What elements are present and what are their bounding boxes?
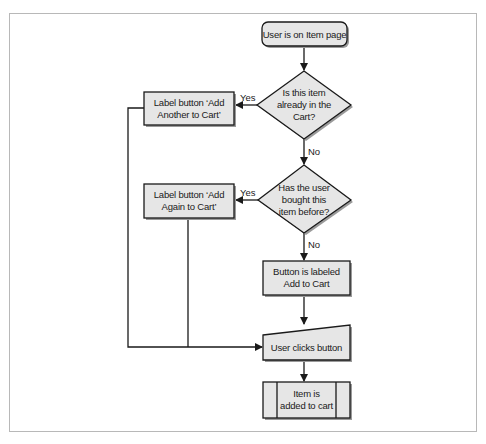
node-label-another-text-1: Label button ‘Add	[154, 97, 225, 108]
node-decision1-text-1: Is this item	[283, 87, 326, 98]
edge-label-yes-2: Yes	[240, 187, 256, 198]
node-label-again-text-1: Label button ‘Add	[154, 189, 225, 200]
edge-label-no-1: No	[308, 146, 320, 157]
node-start-text: User is on Item page	[263, 29, 347, 40]
node-label-again: Label button ‘Add Again to Cart’	[144, 184, 236, 220]
node-label-another: Label button ‘Add Another to Cart’	[144, 92, 236, 127]
edge-another-to-click	[128, 108, 262, 347]
node-label-default-text-1: Button is labeled	[273, 266, 340, 277]
node-added: Item is added to cart	[263, 382, 352, 420]
node-label-default: Button is labeled Add to Cart	[263, 261, 352, 297]
node-added-text-1: Item is	[293, 388, 320, 399]
node-decision1-text-2: already in the	[277, 99, 331, 110]
node-user-clicks-text: User clicks button	[271, 342, 342, 353]
node-decision2-text-3: item before?	[279, 206, 329, 217]
flowchart: Yes No Yes No User is on Item page Is th…	[0, 0, 486, 444]
edge-label-yes-1: Yes	[240, 92, 256, 103]
node-decision1-text-3: Cart?	[293, 111, 315, 122]
node-added-text-2: added to cart	[280, 400, 333, 411]
node-decision1: Is this item already in the Cart?	[257, 71, 353, 141]
edge-label-no-2: No	[308, 239, 320, 250]
node-label-another-text-2: Another to Cart’	[157, 109, 220, 120]
node-label-default-text-2: Add to Cart	[284, 278, 330, 289]
node-decision2-text-2: bought this	[282, 194, 327, 205]
node-decision2: Has the user bought this item before?	[258, 165, 353, 235]
node-label-again-text-2: Again to Cart’	[162, 201, 217, 212]
node-decision2-text-1: Has the user	[278, 182, 329, 193]
node-start: User is on Item page	[262, 22, 349, 48]
node-user-clicks: User clicks button	[263, 325, 352, 362]
